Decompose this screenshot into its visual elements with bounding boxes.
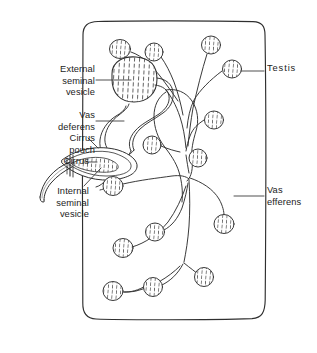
testis-5 bbox=[205, 111, 224, 129]
testis-7 bbox=[189, 149, 207, 167]
vas-efferens-branch-8 bbox=[123, 176, 189, 184]
testis-12 bbox=[195, 268, 214, 287]
testis-8 bbox=[103, 177, 123, 196]
testis-2 bbox=[145, 43, 163, 61]
testis-9 bbox=[214, 215, 234, 234]
testis-14 bbox=[103, 282, 123, 301]
label-testis: Testis bbox=[267, 63, 296, 75]
diagram-canvas bbox=[0, 0, 317, 353]
testis-10 bbox=[146, 223, 165, 241]
vas-efferens-branch-6 bbox=[161, 146, 180, 152]
testis-11 bbox=[113, 239, 133, 258]
anatomical-diagram-figure: External seminal vesicle Vas deferens Ci… bbox=[0, 0, 317, 353]
label-external-seminal-vesicle: External seminal vesicle bbox=[60, 64, 95, 99]
vas-efferens-branch-9 bbox=[190, 178, 224, 215]
testis-3 bbox=[202, 36, 221, 54]
testis-1 bbox=[110, 40, 131, 59]
testis-6 bbox=[143, 136, 161, 154]
label-vas-deferens: Vas deferens bbox=[58, 110, 95, 133]
testis-4 bbox=[223, 60, 242, 78]
label-internal-seminal-vesicle: Internal seminal vesicle bbox=[56, 186, 89, 221]
label-cirrus-pouch: Cirrus pouch bbox=[69, 133, 95, 156]
vas-efferens-branch-2 bbox=[161, 57, 183, 115]
label-cirrus: Cirrus bbox=[64, 156, 89, 168]
duct-confluence-contour bbox=[166, 89, 198, 181]
vas-efferens-trunk-lower bbox=[184, 180, 190, 262]
testis-13 bbox=[144, 278, 163, 297]
label-vas-efferens: Vas efferens bbox=[267, 185, 301, 208]
